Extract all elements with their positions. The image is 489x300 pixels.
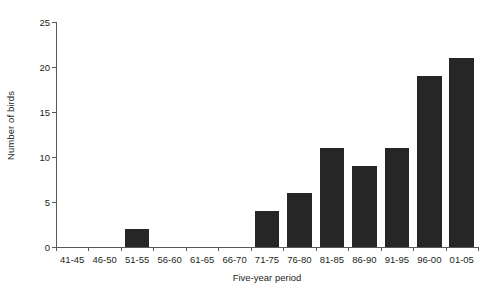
plot-area: 0510152025 41-4546-5051-5556-6061-6566-7… [56, 22, 478, 247]
x-axis-tick-label: 46-50 [93, 254, 117, 265]
y-axis-title: Number of birds [0, 0, 22, 250]
y-axis-tick [52, 22, 56, 23]
x-axis-tick-label: 91-95 [385, 254, 409, 265]
x-axis-tick [478, 247, 479, 251]
bar [385, 148, 410, 247]
y-axis-tick-label: 20 [39, 62, 50, 73]
y-axis-tick-label: 15 [39, 107, 50, 118]
bar [352, 166, 377, 247]
y-axis-tick-label: 10 [39, 152, 50, 163]
y-axis-tick-label: 0 [45, 242, 50, 253]
x-axis-tick [153, 247, 154, 251]
x-axis-tick [283, 247, 284, 251]
x-axis-tick-label: 01-05 [450, 254, 474, 265]
y-axis-tick [52, 202, 56, 203]
x-axis-tick [88, 247, 89, 251]
y-axis-tick-label: 5 [45, 197, 50, 208]
x-axis-tick-label: 81-85 [320, 254, 344, 265]
y-axis-tick-label: 25 [39, 17, 50, 28]
x-axis-tick-label: 56-60 [157, 254, 181, 265]
x-axis-tick-label: 61-65 [190, 254, 214, 265]
y-axis-line [56, 22, 57, 248]
y-axis-tick [52, 157, 56, 158]
x-axis-tick [56, 247, 57, 251]
y-axis-tick [52, 112, 56, 113]
x-axis-tick-label: 51-55 [125, 254, 149, 265]
x-axis-tick [218, 247, 219, 251]
x-axis-tick-label: 41-45 [60, 254, 84, 265]
bar [417, 76, 442, 247]
bar [255, 211, 280, 247]
y-axis-tick [52, 67, 56, 68]
y-axis-title-text: Number of birds [6, 90, 17, 159]
x-axis-tick-label: 66-70 [222, 254, 246, 265]
x-axis-tick-label: 71-75 [255, 254, 279, 265]
x-axis-tick [251, 247, 252, 251]
x-axis-tick [186, 247, 187, 251]
x-axis-tick-label: 76-80 [287, 254, 311, 265]
x-axis-title: Five-year period [56, 272, 478, 283]
x-axis-tick [121, 247, 122, 251]
bar [287, 193, 312, 247]
x-axis-tick [413, 247, 414, 251]
x-axis-tick-label: 96-00 [417, 254, 441, 265]
bar-chart-figure: Number of birds 0510152025 41-4546-5051-… [0, 0, 489, 300]
x-axis-tick-label: 86-90 [352, 254, 376, 265]
x-axis-tick [316, 247, 317, 251]
bar [320, 148, 345, 247]
bar [449, 58, 474, 247]
x-axis-tick [381, 247, 382, 251]
x-axis-tick [446, 247, 447, 251]
x-axis-tick [348, 247, 349, 251]
x-axis-line [56, 247, 478, 248]
bar [125, 229, 150, 247]
